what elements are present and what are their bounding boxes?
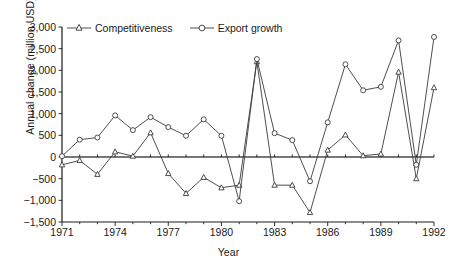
y-tick-label: 2,000 [30, 64, 56, 76]
y-tick-label: −500 [32, 173, 56, 185]
data-point-circle [343, 62, 348, 67]
x-tick-label: 1983 [263, 226, 286, 238]
data-point-circle [166, 125, 171, 130]
data-point-triangle [431, 85, 436, 90]
data-point-circle [254, 57, 259, 62]
data-point-circle [432, 34, 437, 39]
y-tick-label: 0 [50, 151, 56, 163]
x-tick-label: 1974 [103, 226, 126, 238]
data-point-circle [201, 117, 206, 122]
data-point-circle [361, 88, 366, 93]
y-tick-label: 2,500 [30, 43, 56, 55]
data-point-circle [148, 115, 153, 120]
x-tick-label: 1980 [210, 226, 233, 238]
data-point-circle [396, 38, 401, 43]
series-export-growth [60, 34, 437, 203]
data-point-circle [95, 135, 100, 140]
data-point-circle [272, 131, 277, 136]
x-tick-label: 1977 [157, 226, 180, 238]
data-point-circle [414, 162, 419, 167]
x-tick-label: 1992 [422, 226, 445, 238]
data-point-triangle [343, 132, 348, 137]
series-competitiveness [59, 59, 436, 215]
data-point-circle [378, 84, 383, 89]
x-axis-label: Year [0, 246, 457, 258]
circle-marker-icon [189, 22, 215, 34]
data-point-circle [237, 199, 242, 204]
series-line [62, 37, 434, 201]
y-tick-label: −1,000 [24, 194, 56, 206]
x-tick-label: 1986 [316, 226, 339, 238]
series-line [62, 62, 434, 213]
legend-item-competitiveness: Competitiveness [66, 22, 173, 34]
data-point-triangle [414, 176, 419, 181]
data-point-triangle [77, 158, 82, 163]
data-point-circle [290, 138, 295, 143]
data-point-circle [60, 154, 65, 159]
x-tick-label: 1971 [50, 226, 73, 238]
y-tick-label: 1,500 [30, 86, 56, 98]
data-point-circle [77, 137, 82, 142]
x-tick-label: 1989 [369, 226, 392, 238]
data-point-triangle [378, 151, 383, 156]
legend-label-export-growth: Export growth [218, 22, 283, 34]
data-point-circle [325, 120, 330, 125]
data-point-triangle [396, 69, 401, 74]
y-axis-tick-labels: 3,0002,5002,0001,5001,0005000−500−1,000−… [0, 0, 56, 266]
data-point-triangle [166, 171, 171, 176]
triangle-marker-icon [66, 22, 92, 34]
data-point-circle [113, 113, 118, 118]
data-point-circle [308, 179, 313, 184]
y-tick-label: 500 [38, 129, 56, 141]
y-tick-label: 3,000 [30, 21, 56, 33]
data-point-triangle [112, 149, 117, 154]
chart-figure: Annual change (million USD) Year 3,0002,… [0, 0, 457, 266]
legend-label-competitiveness: Competitiveness [95, 22, 173, 34]
data-point-circle [219, 133, 224, 138]
y-tick-label: 1,000 [30, 108, 56, 120]
data-point-circle [130, 128, 135, 133]
data-point-triangle [148, 130, 153, 135]
data-point-triangle [201, 174, 206, 179]
chart-legend: Competitiveness Export growth [66, 22, 282, 34]
data-point-circle [184, 133, 189, 138]
legend-item-export-growth: Export growth [189, 22, 283, 34]
